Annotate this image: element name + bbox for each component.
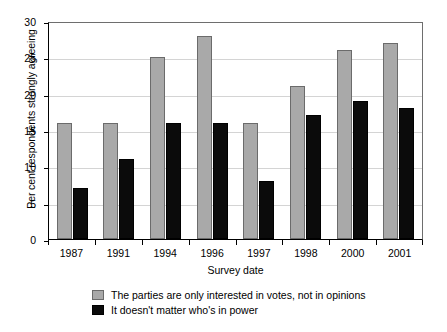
- x-axis-label: 1991: [95, 247, 142, 259]
- bar-series-layer: [49, 23, 422, 239]
- x-axis-tick: [282, 240, 283, 245]
- y-axis-tick-label: 20: [24, 89, 36, 101]
- bar: [337, 50, 352, 239]
- bar: [103, 123, 118, 239]
- bar: [166, 123, 181, 239]
- bar: [73, 188, 88, 239]
- bar-group: [96, 23, 143, 239]
- x-axis-tick: [236, 240, 237, 245]
- plot-area: 051015202530: [48, 22, 423, 240]
- bar: [243, 123, 258, 239]
- legend-item-label: It doesn't matter who's in power: [111, 304, 258, 316]
- x-axis-label: 2001: [376, 247, 423, 259]
- x-axis-label: 1994: [142, 247, 189, 259]
- bar-group: [189, 23, 236, 239]
- x-axis-label: 1987: [48, 247, 95, 259]
- bar-group: [375, 23, 422, 239]
- bar: [353, 101, 368, 239]
- bar-group: [329, 23, 376, 239]
- bar-group: [236, 23, 283, 239]
- bar: [259, 181, 274, 239]
- x-axis-tick: [422, 240, 423, 245]
- x-axis-tick: [189, 240, 190, 245]
- bar: [213, 123, 228, 239]
- bar-group: [282, 23, 329, 239]
- x-axis-tick: [376, 240, 377, 245]
- bar-group: [142, 23, 189, 239]
- x-axis-tick: [142, 240, 143, 245]
- x-axis-label: 2000: [329, 247, 376, 259]
- x-axis-label: 1998: [282, 247, 329, 259]
- grey-swatch: [92, 290, 104, 300]
- y-axis-tick-label: 10: [24, 161, 36, 173]
- bar: [197, 36, 212, 239]
- y-axis-tick-label: 30: [24, 16, 36, 28]
- bar: [306, 115, 321, 239]
- x-axis-label: 1996: [189, 247, 236, 259]
- bar-chart: Per cent respondents strongly agreeing 0…: [0, 0, 447, 332]
- legend-item: The parties are only interested in votes…: [92, 288, 365, 301]
- y-axis-title: Per cent respondents strongly agreeing: [25, 12, 37, 227]
- legend-item: It doesn't matter who's in power: [92, 303, 365, 316]
- legend-item-label: The parties are only interested in votes…: [111, 289, 365, 301]
- y-axis-tick-label: 15: [24, 125, 36, 137]
- bar: [383, 43, 398, 239]
- x-axis-tick: [329, 240, 330, 245]
- x-axis-labels: 19871991199419961997199820002001: [48, 247, 423, 259]
- y-axis-tick-label: 25: [24, 52, 36, 64]
- x-axis-ticks: [48, 240, 423, 245]
- chart-legend: The parties are only interested in votes…: [92, 288, 365, 318]
- bar-group: [49, 23, 96, 239]
- y-axis-tick-label: 5: [30, 198, 36, 210]
- y-axis-tick-label: 0: [30, 234, 36, 246]
- x-axis-label: 1997: [236, 247, 283, 259]
- black-swatch: [92, 305, 104, 315]
- bar: [290, 86, 305, 239]
- bar: [57, 123, 72, 239]
- x-axis-tick: [95, 240, 96, 245]
- x-axis-tick: [48, 240, 49, 245]
- bar: [119, 159, 134, 239]
- x-axis-title: Survey date: [48, 264, 423, 276]
- bar: [399, 108, 414, 239]
- bar: [150, 57, 165, 239]
